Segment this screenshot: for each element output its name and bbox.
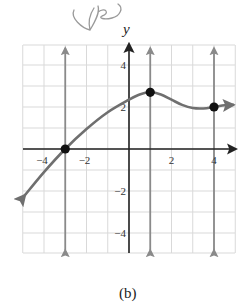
highlighted-points (61, 88, 219, 154)
handwritten-annotation: yes (0, 0, 121, 30)
data-point (209, 102, 218, 111)
function-graph: yes y −4−224 42−2−4 (b) (0, 0, 238, 304)
data-point (61, 144, 70, 153)
y-tick-label: −4 (114, 227, 126, 239)
y-tick-label: 4 (121, 59, 127, 71)
x-tick-label: 4 (211, 154, 217, 166)
figure-caption: (b) (119, 285, 137, 302)
x-tick-label: 2 (169, 154, 175, 166)
x-tick-labels: −4−224 (36, 154, 217, 166)
x-tick-label: −2 (79, 154, 91, 166)
x-tick-label: −4 (36, 154, 48, 166)
data-point (146, 88, 155, 97)
y-tick-label: −2 (114, 185, 126, 197)
y-axis-label: y (121, 21, 130, 37)
